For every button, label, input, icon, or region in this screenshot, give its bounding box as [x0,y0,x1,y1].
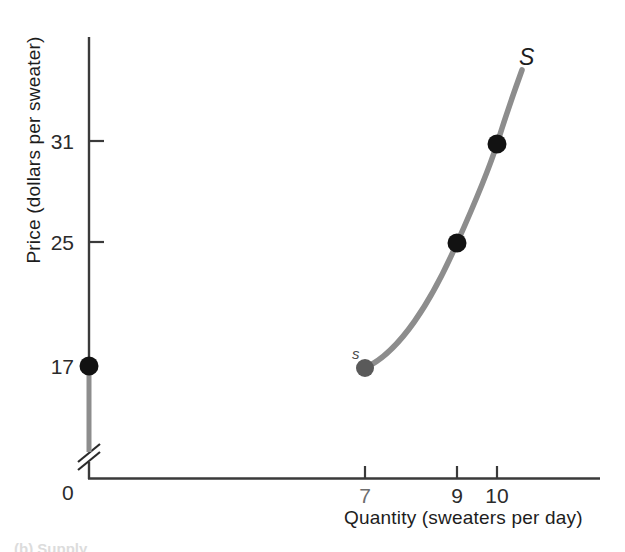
x-tick-label-10: 10 [477,484,517,508]
data-point-marker-25 [448,234,467,253]
x-tick-label-7: 7 [345,484,385,508]
origin-label: 0 [62,482,74,503]
data-point-marker-17 [80,357,99,376]
data-point-marker-31 [488,135,507,154]
y-tick-label-17: 17 [30,355,74,379]
figure-caption: (b) Supply [14,541,314,552]
supply-curve [365,70,522,368]
x-axis-title: Quantity (sweaters per day) [344,508,583,527]
supply-curve-label-lower: s [352,345,360,362]
chart-canvas [0,0,625,552]
supply-curve-label-upper: S [519,44,534,71]
x-tick-label-9: 9 [437,484,477,508]
supply-curve-figure: Price (dollars per sweater) Quantity (sw… [0,0,625,552]
y-tick-label-31: 31 [30,130,74,154]
y-tick-label-25: 25 [30,231,74,255]
